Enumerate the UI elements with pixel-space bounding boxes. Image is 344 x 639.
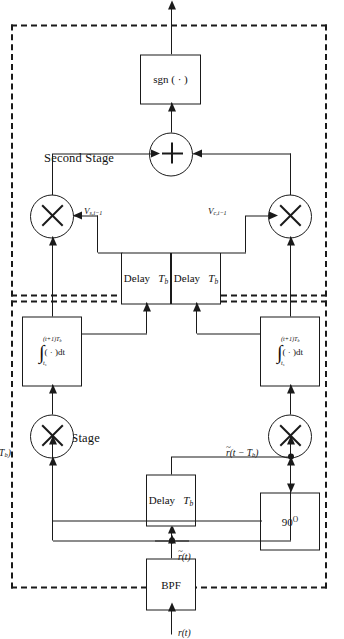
label-inphase-delayed-tilde-wrap: ~r [226,447,230,457]
integrator-block-i: ∫(t+1)Tbts ( · )dt [260,316,320,386]
arrow-delay-s-to-mixer-s [73,211,82,219]
wire-delay-c-out-run [245,215,246,252]
sgn-block: sgn ( · ) [140,54,201,104]
delay-block-first-stage-content: Delay Tb [146,476,196,524]
wire-mixer-s-to-adder-vert [53,153,151,154]
wire-phase-to-mixer1-q-vert [53,520,262,521]
wire-delay-c-out-drop [221,252,246,253]
label-v-s-i-minus-1: Vs,i−1 [84,205,102,216]
adder-plus-vertical [162,152,183,154]
integral-body-q: ( · )dt [44,346,65,356]
label-inphase-delayed: ~r(t − Tb) [226,447,258,458]
label-inphase-delayed-tilde: ~ [226,441,230,451]
delay-block-s-label: Delay [124,271,150,283]
bpf-block-label: BPF [146,560,196,608]
diagram-canvas: Second Stage First Stage sgn ( · ) [0,0,344,639]
arrow-mixer-c-to-adder [193,149,202,157]
delay-block-first-stage-amount-sub: b [189,498,193,507]
phase-shifter-unit: O [293,514,298,523]
integral-lower-limit-q: ts [43,359,46,366]
label-inphase-delayed-close: ) [255,447,258,457]
delay-block-first-stage-label: Delay [149,493,175,505]
mixer-s-block [30,194,74,238]
delay-block-s-amount-sub: b [164,276,168,285]
wire-delay-s-out-drop [98,252,123,253]
arrow-decision-output [169,0,177,9]
integral-lower-limit-i: ts [281,359,284,366]
arrow-mixer1-q-to-integrator [50,384,58,393]
label-bpf-output: ~r(t) [178,551,191,561]
delay-block-c-label: Delay [174,271,200,283]
label-quadrature-delayed-close: ) [8,447,11,457]
arrow-rtilde-to-mixer1-q-head [50,435,58,444]
arrow-rail-vsi-to-mixer-s [50,236,58,245]
phase-shifter-label: 90 [282,515,293,527]
label-v-c-i-minus-1-sub: c,i−1 [214,210,227,216]
wire-decision-output [171,6,172,54]
label-inphase-delayed-arg: (t − T [230,447,252,457]
label-receiver-input-arg: (t) [182,627,191,637]
wire-rtilde-to-mixer1-i [290,435,291,540]
integrator-block-i-content: ∫(t+1)Tbts ( · )dt [256,322,324,380]
integral-symbol-q: ∫(t+1)Tbts [39,341,44,361]
label-v-c-i-minus-1: Vc,i−1 [208,205,227,216]
integrator-block-q: ∫(t+1)Tbts ( · )dt [22,316,82,386]
arrow-delay1-to-phase [288,483,296,492]
arrow-mixer-s-to-adder [151,149,160,157]
arrow-bpf-to-rail [169,534,177,543]
arrow-rail-vci-to-mixer-c [288,236,296,245]
arrow-input-to-bpf [169,602,177,611]
arrow-vci-to-delay-c [194,302,202,311]
wire-rtilde-to-mixer1-q [52,435,53,540]
wire-delay-c-to-mixer-c [246,215,270,216]
arrow-delay1-to-mixer1-i [288,456,296,465]
delay-block-s: Delay Tb [121,252,171,304]
delay-block-s-content: Delay Tb [121,254,171,302]
arrow-vsi-to-delay-s [144,302,152,311]
arrow-phase-to-mixer1-q [50,456,58,465]
delay-block-c-content: Delay Tb [171,254,221,302]
integral-upper-limit-q: (t+1)Tb [43,335,62,342]
second-stage-label: Second Stage [44,150,114,165]
arrow-mixer1-i-to-integrator [288,384,296,393]
integral-upper-limit-i: (t+1)Tb [281,335,300,342]
integral-symbol-i: ∫(t+1)Tbts [277,341,282,361]
integral-body-i: ( · )dt [282,346,303,356]
label-receiver-input: r(t) [178,627,191,637]
arrow-adder-to-sgn [169,102,177,111]
arrow-delay-c-to-mixer-c [269,211,278,219]
label-quadrature-delayed: ^r90(t − Tb) [0,447,11,458]
delay-block-c: Delay Tb [171,252,221,304]
label-v-s-i-minus-1-sub: s,i−1 [90,210,103,216]
label-bpf-output-arg: (t) [182,551,191,561]
delay-block-first-stage: Delay Tb [146,474,196,526]
wire-mixer-c-to-adder-vert [193,153,291,154]
label-bpf-output-tilde: ~ [178,545,182,555]
integrator-block-q-content: ∫(t+1)Tbts ( · )dt [18,322,86,380]
sgn-block-label: sgn ( · ) [147,50,195,109]
wire-delay1-out [171,456,172,474]
wire-delay-s-out-run [97,215,98,252]
arrow-rtilde-to-mixer1-i-head [288,435,296,444]
delay-block-c-amount-sub: b [214,276,218,285]
wire-input-to-bpf [171,608,172,634]
label-bpf-output-tilde-wrap: ~r [178,551,182,561]
